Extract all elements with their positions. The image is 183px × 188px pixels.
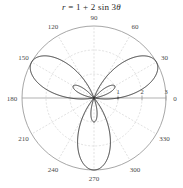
polar-axes: 0 30 60 90 120 150 180 210 240 270 300 3… <box>0 0 183 188</box>
polar-plot-figure: r = 1 + 2 sin 3θ <box>0 0 183 188</box>
spoke-330 <box>94 98 156 134</box>
angle-label-150: 150 <box>18 54 29 62</box>
angle-label-60: 60 <box>132 23 140 31</box>
angle-label-30: 30 <box>161 54 169 62</box>
radial-label-3: 3 <box>164 88 167 95</box>
angle-label-120: 120 <box>48 23 59 31</box>
spoke-120 <box>58 36 94 98</box>
angle-label-180: 180 <box>7 95 18 103</box>
radial-label-1: 1 <box>116 88 119 95</box>
angle-label-300: 300 <box>130 166 141 174</box>
angle-label-330: 330 <box>159 135 170 143</box>
angle-label-270: 270 <box>89 175 100 183</box>
spoke-210 <box>32 98 94 134</box>
spoke-60 <box>94 36 130 98</box>
angle-label-210: 210 <box>18 135 29 143</box>
spoke-240 <box>58 98 94 160</box>
radial-tick-labels: 1 2 3 <box>116 88 167 95</box>
radial-label-2: 2 <box>140 88 143 95</box>
angle-label-0: 0 <box>173 95 177 103</box>
angle-label-240: 240 <box>48 166 59 174</box>
angle-label-90: 90 <box>91 14 99 22</box>
spoke-300 <box>94 98 130 160</box>
